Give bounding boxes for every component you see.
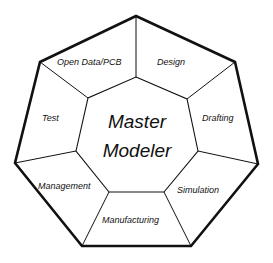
segment-label-design: Design bbox=[157, 57, 185, 67]
segment-label-simulation: Simulation bbox=[177, 185, 219, 195]
segment-label-management: Management bbox=[38, 181, 91, 191]
center-title-line1: Master bbox=[108, 111, 167, 132]
segment-label-manufacturing: Manufacturing bbox=[102, 215, 159, 225]
segment-label-test: Test bbox=[42, 113, 59, 123]
segment-label-open-data-pcb: Open Data/PCB bbox=[57, 57, 122, 67]
center-title-line2: Modeler bbox=[103, 140, 172, 161]
segment-label-drafting: Drafting bbox=[202, 113, 234, 123]
master-modeler-heptagon-diagram: Open Data/PCB Design Drafting Simulation… bbox=[0, 0, 273, 263]
